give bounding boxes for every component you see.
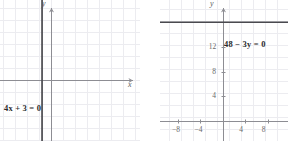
right-graph-canvas — [160, 0, 288, 141]
left-x-axis-label: x — [128, 80, 132, 89]
left-y-axis-label: y — [42, 0, 46, 8]
right-graph-panel: 48 − 3y = 0 y −8−4484812 — [160, 0, 288, 141]
grid-lines — [0, 0, 140, 141]
left-graph-panel: 4x + 3 = 0 y x — [0, 0, 140, 141]
x-tick-label: −8 — [172, 125, 180, 134]
y-tick-label: 4 — [212, 91, 216, 100]
y-tick-label: 12 — [209, 42, 217, 51]
y-tick-label: 8 — [212, 67, 216, 76]
x-tick-label: 8 — [262, 125, 266, 134]
right-y-axis-label: y — [210, 0, 214, 8]
left-equation-label: 4x + 3 = 0 — [4, 103, 41, 113]
right-equation-label: 48 − 3y = 0 — [224, 39, 266, 49]
x-tick-label: −4 — [194, 125, 202, 134]
axis-lines — [0, 8, 133, 141]
left-graph-canvas — [0, 0, 140, 141]
two-graph-figure: 4x + 3 = 0 y x 48 − 3y = 0 y −8−4484812 — [0, 0, 288, 141]
x-tick-label: 4 — [239, 125, 243, 134]
